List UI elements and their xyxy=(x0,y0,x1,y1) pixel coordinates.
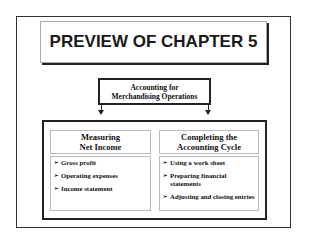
list-item: ➢ Using a work sheet xyxy=(163,159,255,167)
column-body-completing-accounting-cycle: ➢ Using a work sheet ➢ Preparing financi… xyxy=(159,156,259,211)
column-header-completing-accounting-cycle: Completing the Accounting Cycle xyxy=(159,130,259,154)
arrow-bullet-icon: ➢ xyxy=(54,172,61,180)
list-item-text: Adjusting and closing entries xyxy=(170,193,254,201)
arrow-bullet-icon: ➢ xyxy=(163,172,170,188)
list-item: ➢ Income statement xyxy=(54,185,147,193)
list-item: ➢ Operating expenses xyxy=(54,172,147,180)
list-item-text: Income statement xyxy=(61,185,113,193)
list-item-text: Using a work sheet xyxy=(170,159,225,167)
arrow-down-left-icon xyxy=(98,105,104,115)
topic-box: Accounting for Merchandising Operations xyxy=(98,78,211,105)
column-body-measuring-net-income: ➢ Gross profit ➢ Operating expenses ➢ In… xyxy=(50,156,151,211)
topic-line-2: Merchandising Operations xyxy=(112,92,198,101)
arrow-bullet-icon: ➢ xyxy=(163,193,170,201)
title-box: PREVIEW OF CHAPTER 5 xyxy=(40,21,267,63)
column-header-measuring-net-income: Measuring Net Income xyxy=(50,130,151,154)
arrow-bullet-icon: ➢ xyxy=(54,159,61,167)
list-item-text: Gross profit xyxy=(61,159,96,167)
slide-title: PREVIEW OF CHAPTER 5 xyxy=(50,32,258,52)
arrow-down-right-icon xyxy=(205,105,211,115)
topic-line-1: Accounting for xyxy=(130,83,178,92)
column-header-line-2: Accounting Cycle xyxy=(177,142,241,152)
list-item: ➢ Preparing financial statements xyxy=(163,172,255,188)
arrow-bullet-icon: ➢ xyxy=(54,185,61,193)
list-item: ➢ Adjusting and closing entries xyxy=(163,193,255,201)
arrow-bullet-icon: ➢ xyxy=(163,159,170,167)
list-item-text: Operating expenses xyxy=(61,172,118,180)
list-item: ➢ Gross profit xyxy=(54,159,147,167)
column-header-line-1: Completing the xyxy=(181,132,237,142)
column-header-line-1: Measuring xyxy=(81,132,120,142)
column-header-line-2: Net Income xyxy=(80,142,122,152)
list-item-text: Preparing financial statements xyxy=(170,172,240,188)
